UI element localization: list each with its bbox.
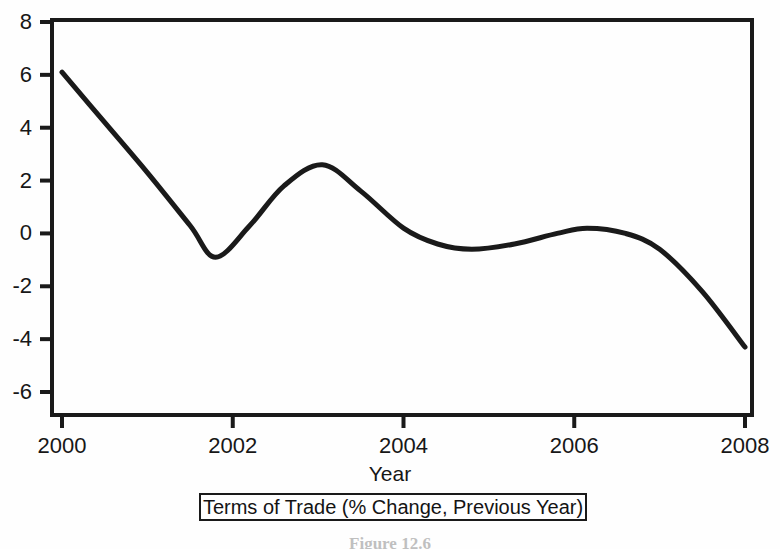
axis-frame [52, 20, 752, 415]
x-tick-label: 2002 [208, 433, 257, 459]
y-tick-label: -4 [0, 326, 32, 352]
y-tick-label: -2 [0, 273, 32, 299]
y-tick-label: 4 [0, 115, 32, 141]
y-tick-label: -6 [0, 379, 32, 405]
y-tick-label: 8 [0, 9, 32, 35]
y-tick-label: 6 [0, 62, 32, 88]
y-tick-label: 0 [0, 220, 32, 246]
legend-box: Terms of Trade (% Change, Previous Year) [199, 493, 587, 521]
figure-caption: Figure 12.6 [0, 534, 780, 549]
y-tick-label: 2 [0, 168, 32, 194]
x-axis-title: Year [0, 462, 780, 486]
data-series-line [62, 72, 745, 347]
figure-container: -6-4-202468 20002002200420062008 Year Te… [0, 0, 780, 549]
x-tick-label: 2000 [38, 433, 87, 459]
legend-label: Terms of Trade (% Change, Previous Year) [203, 497, 583, 517]
x-tick-label: 2008 [721, 433, 770, 459]
x-tick-label: 2004 [379, 433, 428, 459]
x-tick-label: 2006 [550, 433, 599, 459]
